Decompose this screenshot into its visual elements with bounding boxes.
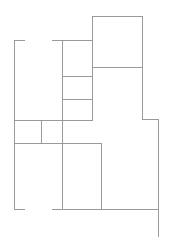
floor-plan-diagram — [0, 0, 173, 237]
walls-group — [15, 17, 159, 237]
